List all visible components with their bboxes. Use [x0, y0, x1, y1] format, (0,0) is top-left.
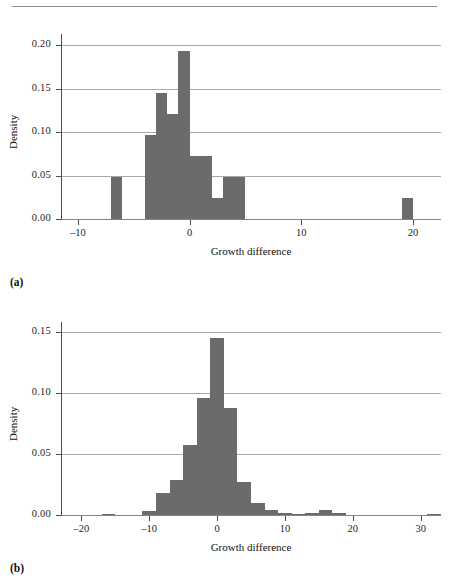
x-tick-label: 20	[333, 523, 373, 534]
histogram-bar	[197, 398, 211, 515]
y-axis-spine	[61, 322, 62, 515]
y-tick-mark	[56, 332, 61, 333]
x-tick-label: –10	[129, 523, 169, 534]
y-tick-label: 0.15	[19, 325, 51, 336]
histogram-bar	[178, 51, 189, 219]
x-tick-mark	[413, 220, 414, 225]
gridline-y	[61, 454, 441, 455]
y-axis-label-b: Density	[7, 406, 19, 440]
x-tick-label: 10	[281, 227, 321, 238]
y-tick-mark	[56, 176, 61, 177]
panel-letter-a: (a)	[10, 276, 23, 288]
histogram-bar	[201, 156, 212, 219]
x-tick-label: 0	[197, 523, 237, 534]
y-tick-label: 0.15	[19, 82, 51, 93]
histogram-bar	[167, 114, 178, 219]
y-axis-label-a: Density	[7, 114, 19, 148]
x-tick-mark	[285, 516, 286, 521]
x-tick-label: 0	[170, 227, 210, 238]
gridline-y	[61, 45, 441, 46]
y-tick-mark	[56, 219, 61, 220]
gridline-y	[61, 515, 441, 516]
y-tick-label: 0.05	[19, 169, 51, 180]
histogram-bar	[170, 480, 184, 515]
y-tick-mark	[56, 515, 61, 516]
histogram-bar	[111, 177, 122, 219]
panel-letter-b: (b)	[10, 562, 24, 574]
x-tick-mark	[190, 220, 191, 225]
y-tick-mark	[56, 89, 61, 90]
x-tick-label: 30	[401, 523, 441, 534]
y-tick-mark	[56, 393, 61, 394]
x-tick-label: 20	[393, 227, 433, 238]
histogram-bar	[292, 514, 306, 515]
figure-page: Density Growth difference (a) 0.000.050.…	[0, 0, 449, 585]
gridline-y	[61, 132, 441, 133]
histogram-bar	[183, 445, 197, 515]
plot-area-a	[61, 34, 441, 219]
gridline-y	[61, 89, 441, 90]
gridline-y	[61, 219, 441, 220]
histogram-panel-b: Density Growth difference (b) 0.000.050.…	[0, 290, 449, 585]
histogram-bar	[265, 510, 279, 515]
x-tick-mark	[217, 516, 218, 521]
plot-area-b	[61, 322, 441, 515]
histogram-bar	[145, 135, 156, 219]
histogram-bar	[234, 177, 245, 219]
histogram-bar	[102, 514, 116, 515]
x-axis-label-b: Growth difference	[61, 541, 441, 553]
x-tick-mark	[78, 220, 79, 225]
x-tick-mark	[301, 220, 302, 225]
gridline-y	[61, 393, 441, 394]
histogram-bar	[223, 177, 234, 219]
histogram-bar	[156, 493, 170, 515]
histogram-bar	[278, 513, 292, 515]
y-tick-label: 0.00	[19, 212, 51, 223]
x-tick-mark	[353, 516, 354, 521]
histogram-bar	[402, 198, 413, 219]
histogram-bar	[237, 482, 251, 515]
histogram-bar	[212, 198, 223, 219]
histogram-panel-a: Density Growth difference (a) 0.000.050.…	[0, 0, 449, 290]
y-tick-label: 0.10	[19, 125, 51, 136]
y-tick-label: 0.00	[19, 508, 51, 519]
histogram-bar	[224, 408, 238, 515]
x-tick-label: –10	[58, 227, 98, 238]
y-tick-mark	[56, 454, 61, 455]
histogram-bar	[305, 513, 319, 515]
histogram-bar	[190, 156, 201, 219]
histogram-bar	[332, 513, 346, 515]
gridline-y	[61, 332, 441, 333]
y-axis-spine	[61, 34, 62, 219]
x-tick-mark	[149, 516, 150, 521]
x-tick-mark	[81, 516, 82, 521]
x-axis-label-a: Growth difference	[61, 245, 441, 257]
x-tick-label: –20	[61, 523, 101, 534]
x-tick-mark	[421, 516, 422, 521]
y-tick-label: 0.05	[19, 447, 51, 458]
histogram-bar	[142, 511, 156, 515]
y-tick-label: 0.10	[19, 386, 51, 397]
y-tick-label: 0.20	[19, 38, 51, 49]
x-tick-label: 10	[265, 523, 305, 534]
histogram-bar	[210, 338, 224, 515]
y-tick-mark	[56, 45, 61, 46]
y-tick-mark	[56, 132, 61, 133]
histogram-bar	[156, 93, 167, 219]
histogram-bar	[319, 510, 333, 515]
histogram-bar	[427, 514, 441, 515]
histogram-bar	[251, 503, 265, 515]
